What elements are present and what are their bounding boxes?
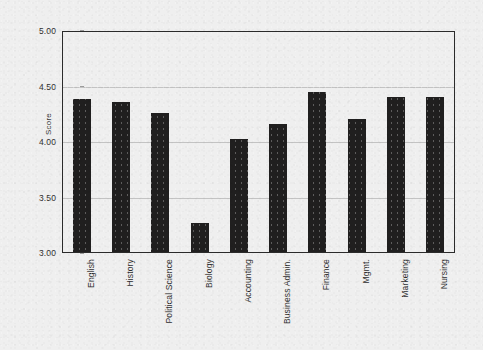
x-tick-label: Finance [321, 259, 331, 290]
x-tick-label: Mgmt. [361, 259, 371, 283]
x-tick-label: Accounting [243, 259, 253, 303]
plot-frame-border [62, 31, 455, 253]
x-tick-label: Biology [204, 259, 214, 288]
y-tick-label: 4.00 [39, 137, 56, 147]
x-tick-label: Political Science [164, 259, 174, 323]
y-tick-label: 5.00 [39, 26, 56, 36]
y-axis-tick-labels: 5.004.504.003.503.00 [22, 31, 56, 253]
y-tick-label: 4.50 [39, 82, 56, 92]
x-tick-label: English [86, 259, 96, 288]
x-axis-tick-labels: EnglishHistoryPolitical ScienceBiologyAc… [62, 253, 455, 348]
y-tick-label: 3.50 [39, 193, 56, 203]
x-tick-label: History [125, 259, 135, 287]
x-tick-label: Nursing [439, 259, 449, 289]
bar-chart-figure: Score 5.004.504.003.503.00 EnglishHistor… [0, 0, 483, 350]
y-tick-label: 3.00 [39, 248, 56, 258]
x-tick-label: Marketing [400, 259, 410, 298]
x-tick-label: Business Admin. [282, 259, 292, 324]
